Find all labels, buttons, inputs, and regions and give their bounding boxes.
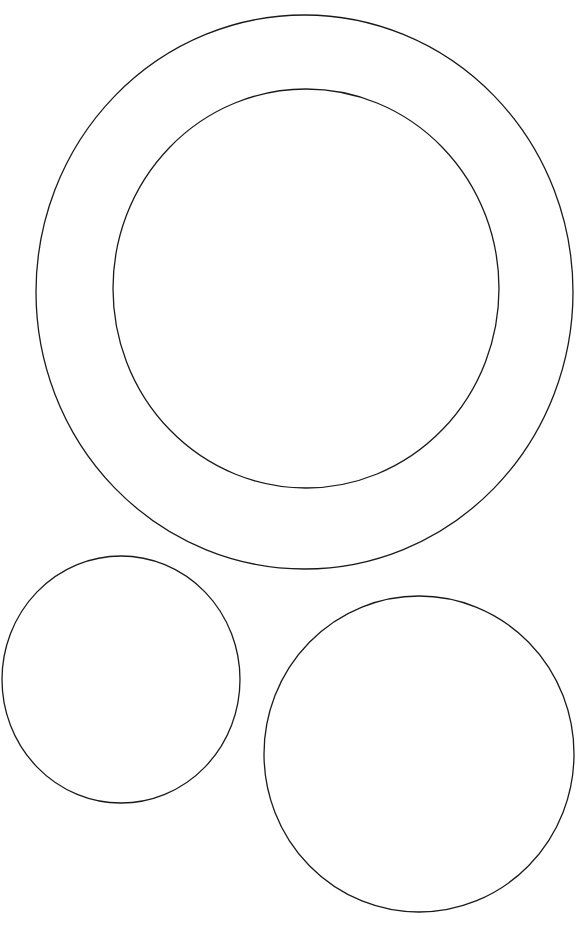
circle-template-diagram bbox=[0, 0, 584, 925]
outer-ring-ellipse bbox=[36, 15, 573, 569]
inner-ring-ellipse bbox=[113, 89, 499, 488]
medium-circle-bottom-right bbox=[264, 596, 574, 912]
small-circle-bottom-left bbox=[2, 556, 240, 803]
